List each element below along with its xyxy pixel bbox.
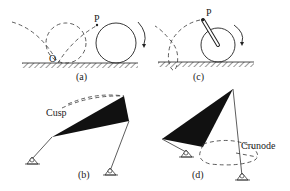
crank-link xyxy=(32,137,52,159)
caption-d: (d) xyxy=(192,169,204,181)
mechanism-diagram: P O (a) P (c) Cusp (b) xyxy=(0,0,290,191)
panel-d: Crunode (d) xyxy=(162,89,276,181)
ground-pivot-left xyxy=(25,157,40,164)
rocker-link xyxy=(110,121,129,171)
coupler-curve-crossing xyxy=(236,153,257,157)
panel-c: P (c) xyxy=(155,7,254,83)
rocker-link xyxy=(233,89,242,176)
point-p-marker xyxy=(202,19,205,22)
label-cusp: Cusp xyxy=(46,107,67,118)
ground-hatching xyxy=(22,63,138,68)
point-p-marker xyxy=(96,24,98,26)
panel-a: P O (a) xyxy=(12,13,146,83)
label-crunode: Crunode xyxy=(241,140,276,151)
label-p: P xyxy=(94,13,100,24)
rotation-arrow-icon xyxy=(138,22,145,44)
caption-b: (b) xyxy=(78,169,90,181)
coupler-link xyxy=(162,89,233,147)
rolling-circle xyxy=(96,23,136,63)
ground-hatching xyxy=(158,62,254,67)
label-o: O xyxy=(49,53,56,64)
ground-pivot-left xyxy=(179,150,194,157)
rotation-arrow-icon xyxy=(234,25,243,42)
caption-c: (c) xyxy=(193,71,204,83)
caption-a: (a) xyxy=(76,71,87,83)
arrowhead-icon xyxy=(142,44,146,48)
arrowhead-icon xyxy=(240,42,244,46)
panel-b: Cusp (b) xyxy=(25,95,129,181)
ground-pivot-right xyxy=(235,173,250,180)
arm-link-inner xyxy=(203,20,218,45)
ground-pivot-right xyxy=(103,168,118,175)
label-p: P xyxy=(206,7,212,18)
